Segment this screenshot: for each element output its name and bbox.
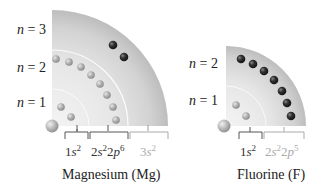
mg-label-n2: n = 2 xyxy=(17,60,46,75)
mg-electron-1s xyxy=(67,113,75,121)
f-electron-1s xyxy=(242,112,250,120)
f-valence-electron xyxy=(270,76,279,85)
f-config-2s2p: 2s22p5 xyxy=(265,143,299,159)
mg-bracket-2s2p xyxy=(90,132,128,139)
f-valence-electron xyxy=(278,87,287,96)
f-valence-electron xyxy=(237,55,246,64)
f-element-name: Fluorine (F) xyxy=(237,167,305,183)
f-valence-electron xyxy=(283,99,292,108)
mg-bracket-3s xyxy=(130,132,168,139)
f-bracket-1s xyxy=(239,127,262,139)
f-valence-electron xyxy=(260,67,269,76)
mg-valence-electron xyxy=(120,53,129,62)
mg-electron-2sp xyxy=(103,91,111,99)
f-bracket-2s2p xyxy=(264,127,304,139)
f-valence-electron xyxy=(287,112,296,121)
mg-electron-2sp xyxy=(77,63,85,71)
mg-label-n3: n = 3 xyxy=(17,22,46,37)
mg-electron-2sp xyxy=(112,116,120,124)
f-config-1s: 1s2 xyxy=(240,143,256,159)
magnesium-diagram: n = 3 n = 2 n = 1 1s2 2s22p6 3s2 Magnesi… xyxy=(17,10,168,183)
mg-label-n1: n = 1 xyxy=(17,95,46,110)
mg-electron-2sp xyxy=(109,103,117,111)
mg-bracket-1s xyxy=(65,129,88,139)
f-label-n1: n = 1 xyxy=(189,93,218,108)
mg-electron-2sp xyxy=(96,80,104,88)
mg-config-1s: 1s2 xyxy=(65,143,81,159)
f-label-n2: n = 2 xyxy=(189,56,218,71)
f-nucleus xyxy=(218,120,231,133)
mg-element-name: Magnesium (Mg) xyxy=(62,167,161,183)
electron-shell-diagram: n = 3 n = 2 n = 1 1s2 2s22p6 3s2 Magnesi… xyxy=(0,0,322,190)
mg-config-2s2p: 2s22p6 xyxy=(91,143,125,159)
mg-electron-2sp xyxy=(65,58,73,66)
f-electron-1s xyxy=(232,101,240,109)
mg-config-3s: 3s2 xyxy=(140,143,156,159)
mg-nucleus xyxy=(46,120,59,133)
f-valence-electron xyxy=(249,60,258,69)
mg-electron-2sp xyxy=(52,55,60,63)
mg-electron-1s xyxy=(57,103,65,111)
mg-valence-electron xyxy=(109,41,118,50)
fluorine-diagram: n = 2 n = 1 1s2 2s22p5 Fluorine (F) xyxy=(189,46,306,183)
mg-electron-2sp xyxy=(87,71,95,79)
